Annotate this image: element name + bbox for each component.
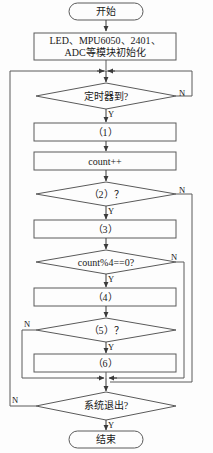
node-end-shape <box>69 431 143 448</box>
node-count-mod-shape <box>36 250 176 274</box>
node-timer-check-shape <box>36 83 176 109</box>
node-count-inc-shape <box>34 152 176 170</box>
node-start-shape <box>69 3 143 20</box>
flowchart-canvas <box>0 0 213 453</box>
node-cond5-shape <box>36 318 176 342</box>
node-step6-shape <box>34 354 176 372</box>
node-step3-shape <box>34 220 176 238</box>
node-step1-shape <box>34 123 176 141</box>
node-cond2-shape <box>36 182 176 206</box>
node-step4-shape <box>34 288 176 306</box>
node-init-shape <box>34 33 176 60</box>
node-exit-check-shape <box>36 392 176 420</box>
